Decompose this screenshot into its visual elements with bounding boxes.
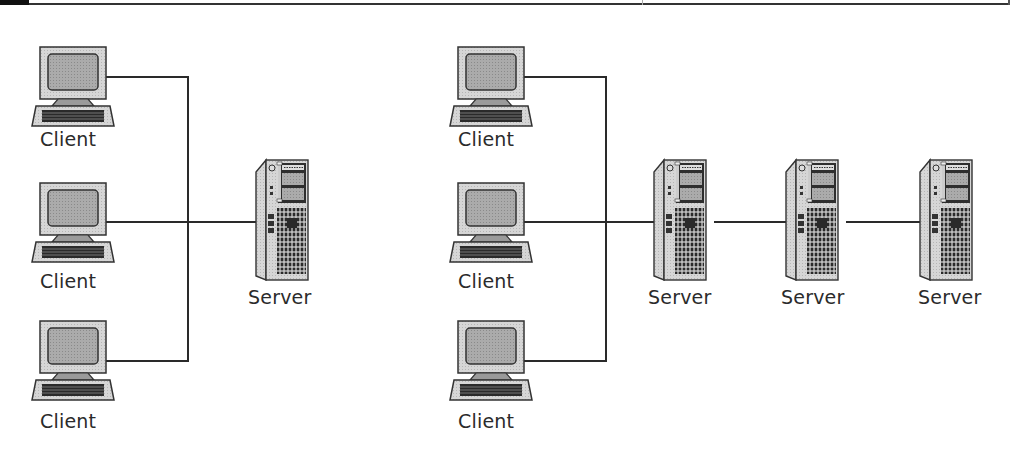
client-computer-icon (32, 321, 114, 400)
server-label: Server (781, 286, 845, 308)
server-label: Server (248, 286, 312, 308)
panel2-bus (522, 77, 922, 361)
client-label: Client (458, 410, 514, 432)
client-label: Client (40, 270, 96, 292)
server-label: Server (648, 286, 712, 308)
client-label: Client (458, 128, 514, 150)
client-label: Client (40, 410, 96, 432)
panel1-bus (105, 77, 256, 361)
client-computer-icon (450, 47, 532, 126)
server-tower-icon (256, 160, 308, 280)
server-label: Server (918, 286, 982, 308)
client-label: Client (40, 128, 96, 150)
server-tower-icon (920, 160, 972, 280)
server-tower-icon (786, 160, 838, 280)
server-tower-icon (654, 160, 706, 280)
client-label: Client (458, 270, 514, 292)
network-diagram (0, 0, 1013, 462)
client-computer-icon (450, 321, 532, 400)
client-computer-icon (32, 183, 114, 262)
client-computer-icon (450, 183, 532, 262)
client-computer-icon (32, 47, 114, 126)
